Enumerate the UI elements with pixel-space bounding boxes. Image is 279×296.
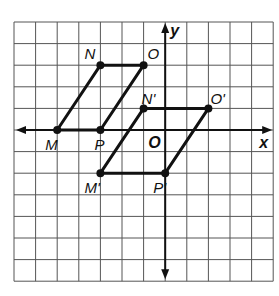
- vertex-label-p-prime: P': [153, 179, 167, 196]
- x-axis-label: x: [258, 134, 269, 151]
- vertex-point-m: [53, 126, 61, 134]
- vertex-point-o: [140, 61, 148, 69]
- vertex-point-n: [96, 61, 104, 69]
- vertex-label-m-prime: M': [84, 179, 100, 196]
- vertex-label-o-prime: O': [210, 90, 226, 107]
- vertex-label-n: N: [84, 45, 95, 62]
- y-axis-down-arrow-icon: [161, 269, 169, 279]
- vertex-point-m-prime: [96, 169, 104, 177]
- y-axis-up-arrow-icon: [161, 23, 169, 33]
- origin-label: O: [148, 134, 161, 151]
- vertex-label-o: O: [148, 45, 160, 62]
- coordinate-grid-diagram: MNOPM'N'O'P'Oxy: [0, 0, 279, 296]
- y-axis-label: y: [169, 22, 180, 39]
- parallelograms: [53, 61, 212, 177]
- vertex-label-m: M: [45, 136, 58, 153]
- x-axis-left-arrow-icon: [16, 126, 26, 134]
- vertex-label-p: P: [94, 136, 104, 153]
- vertex-label-n-prime: N': [142, 90, 157, 107]
- vertex-point-p: [96, 126, 104, 134]
- x-axis-right-arrow-icon: [262, 126, 272, 134]
- vertex-point-p-prime: [161, 169, 169, 177]
